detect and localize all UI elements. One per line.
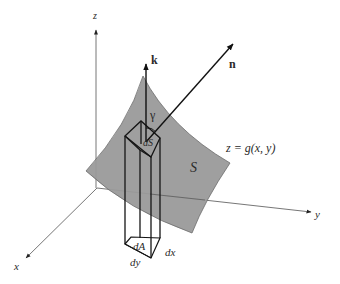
vectors — [146, 44, 233, 142]
k-label: k — [151, 53, 158, 67]
gamma-label: γ — [149, 108, 156, 122]
n-label: n — [229, 57, 236, 71]
z-axis-label: z — [92, 10, 97, 21]
y-axis-label: y — [314, 208, 320, 220]
diagram-canvas: z x y k n γ dS S z = g(x, y) dA dy dx — [0, 0, 340, 284]
n-vector — [146, 44, 233, 142]
surface-name-label: S — [190, 160, 197, 175]
da-label: dA — [133, 240, 146, 252]
surface-integral-diagram: z x y k n γ dS S z = g(x, y) dA dy dx — [0, 0, 340, 284]
dy-label: dy — [130, 256, 141, 268]
dx-label: dx — [165, 246, 176, 258]
surface-equation-label: z = g(x, y) — [225, 141, 275, 155]
ds-label: dS — [143, 137, 153, 148]
x-axis — [26, 188, 97, 258]
x-axis-label: x — [13, 260, 19, 272]
surface-s — [86, 76, 230, 233]
